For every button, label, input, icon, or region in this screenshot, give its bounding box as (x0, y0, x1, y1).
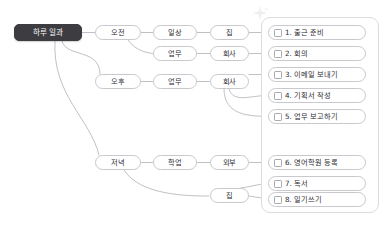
task-item-7[interactable]: 7. 독서 (268, 176, 366, 191)
node-place-office-pm[interactable]: 회사 (210, 74, 249, 89)
task-label: 6. 영어학원 등록 (285, 159, 338, 166)
node-label: 외부 (223, 159, 237, 166)
task-item-3[interactable]: 3. 이메일 보내기 (268, 67, 366, 82)
node-label: 학업 (168, 159, 182, 166)
task-label: 1. 출근 준비 (285, 29, 324, 36)
node-time-morning[interactable]: 오전 (95, 25, 141, 40)
root-node-label: 하루 일과 (33, 29, 63, 37)
task-label: 2. 회의 (285, 50, 308, 57)
checkbox-icon[interactable] (274, 92, 282, 100)
mindmap-canvas: 하루 일과 오전 오후 저녁 일상 업무 업무 학업 집 회사 회사 외부 집 … (0, 0, 382, 228)
node-category-work-am[interactable]: 업무 (153, 46, 197, 61)
node-time-afternoon[interactable]: 오후 (95, 74, 141, 89)
root-node[interactable]: 하루 일과 (14, 24, 82, 41)
node-label: 일상 (168, 29, 182, 36)
task-label: 8. 일기쓰기 (285, 196, 322, 203)
task-label: 7. 독서 (285, 180, 308, 187)
node-place-outside[interactable]: 외부 (210, 155, 249, 170)
node-category-study[interactable]: 학업 (153, 155, 197, 170)
task-item-5[interactable]: 5. 업무 보고하기 (268, 109, 366, 124)
task-label: 3. 이메일 보내기 (285, 71, 338, 78)
node-category-work-pm[interactable]: 업무 (153, 74, 197, 89)
node-label: 오후 (111, 78, 125, 85)
checkbox-icon[interactable] (274, 159, 282, 167)
task-item-6[interactable]: 6. 영어학원 등록 (268, 155, 366, 170)
node-label: 회사 (223, 50, 237, 57)
checkbox-icon[interactable] (274, 113, 282, 121)
checkbox-icon[interactable] (274, 50, 282, 58)
task-label: 5. 업무 보고하기 (285, 113, 338, 120)
node-place-home-am[interactable]: 집 (210, 25, 249, 40)
node-place-home-pm[interactable]: 집 (210, 188, 249, 203)
node-place-office-am[interactable]: 회사 (210, 46, 249, 61)
task-item-4[interactable]: 4. 기획서 작성 (268, 88, 366, 103)
checkbox-icon[interactable] (274, 71, 282, 79)
task-item-1[interactable]: 1. 출근 준비 (268, 25, 366, 40)
node-label: 저녁 (111, 159, 125, 166)
node-label: 업무 (168, 50, 182, 57)
task-item-2[interactable]: 2. 회의 (268, 46, 366, 61)
node-label: 업무 (168, 78, 182, 85)
node-label: 오전 (111, 29, 125, 36)
node-label: 집 (226, 192, 233, 199)
task-item-8[interactable]: 8. 일기쓰기 (268, 192, 366, 207)
node-label: 집 (226, 29, 233, 36)
checkbox-icon[interactable] (274, 180, 282, 188)
node-label: 회사 (223, 78, 237, 85)
task-label: 4. 기획서 작성 (285, 92, 331, 99)
node-category-daily[interactable]: 일상 (153, 25, 197, 40)
node-time-evening[interactable]: 저녁 (95, 155, 141, 170)
checkbox-icon[interactable] (274, 29, 282, 37)
checkbox-icon[interactable] (274, 196, 282, 204)
